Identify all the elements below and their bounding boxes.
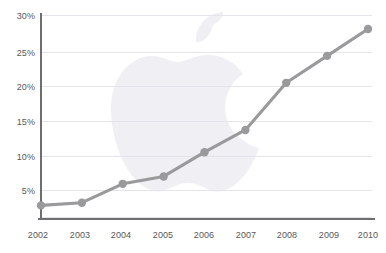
y-axis-tick-labels: 30% 25% 20% 15% 10% 5% [17, 11, 35, 196]
x-tick-label-2010: 2010 [358, 230, 378, 240]
y-tick-label-25: 25% [17, 48, 35, 58]
data-point-2009 [323, 52, 331, 60]
x-tick-label-2005: 2005 [153, 230, 173, 240]
apple-logo-body-icon [111, 55, 259, 192]
apple-logo-icon [196, 12, 223, 42]
data-point-2003 [78, 198, 86, 206]
y-tick-label-5: 5% [22, 186, 35, 196]
y-tick-label-20: 20% [17, 82, 35, 92]
x-tick-label-2002: 2002 [28, 230, 48, 240]
x-tick-label-2007: 2007 [236, 230, 256, 240]
data-point-2002 [37, 201, 45, 209]
line-chart: 30% 25% 20% 15% 10% 5% 2002 2003 2004 20… [0, 0, 386, 253]
y-tick-label-30: 30% [17, 11, 35, 21]
data-point-2004 [119, 180, 127, 188]
x-tick-label-2006: 2006 [194, 230, 214, 240]
y-tick-label-15: 15% [17, 117, 35, 127]
chart-canvas: 30% 25% 20% 15% 10% 5% 2002 2003 2004 20… [0, 0, 386, 253]
data-point-2006 [200, 148, 208, 156]
x-tick-label-2009: 2009 [319, 230, 339, 240]
data-point-2010 [364, 25, 372, 33]
x-tick-label-2004: 2004 [111, 230, 131, 240]
data-point-2008 [282, 79, 290, 87]
data-point-2005 [159, 172, 167, 180]
data-point-2007 [241, 126, 249, 134]
x-axis-tick-labels: 2002 2003 2004 2005 2006 2007 2008 2009 … [28, 230, 378, 240]
y-tick-label-10: 10% [17, 152, 35, 162]
x-tick-label-2008: 2008 [277, 230, 297, 240]
x-tick-label-2003: 2003 [70, 230, 90, 240]
